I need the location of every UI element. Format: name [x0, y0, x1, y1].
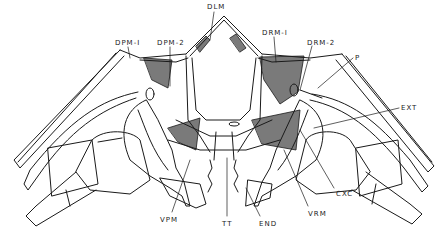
label-cxc: CXC — [336, 190, 353, 198]
leader-cxc — [300, 130, 334, 188]
lateral-muscle-right — [252, 110, 300, 150]
leader-vrm — [284, 150, 308, 206]
right-wing — [310, 54, 434, 192]
drm-muscle-right — [260, 56, 304, 104]
left-leg — [26, 140, 98, 226]
label-drm1: DRM-I — [262, 29, 288, 37]
left-wing — [14, 50, 138, 190]
label-vpm: VPM — [160, 216, 178, 224]
leader-ext — [314, 108, 399, 128]
label-dpm1: DPM-I — [115, 39, 140, 47]
label-p: P — [355, 54, 360, 62]
label-drm2: DRM-2 — [307, 39, 335, 47]
leader-dpm1 — [128, 47, 130, 58]
dpm-muscle-left — [144, 58, 172, 88]
leader-p — [318, 58, 353, 88]
label-tt: TT — [222, 220, 232, 228]
label-end: END — [259, 220, 277, 228]
thorax-cross-section-diagram — [0, 0, 446, 239]
dlm-muscle-left — [196, 36, 210, 52]
label-dpm2: DPM-2 — [157, 39, 185, 47]
muscle-masses — [144, 34, 304, 150]
dlm-muscle-right — [230, 34, 246, 52]
label-vrm: VRM — [308, 210, 327, 218]
label-ext: EXT — [401, 104, 417, 112]
label-dlm: DLM — [207, 3, 225, 11]
